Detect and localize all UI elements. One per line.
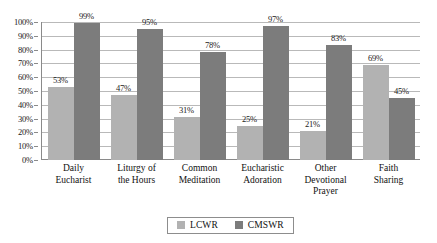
x-axis-category-labels: Daily EucharistLiturgy of the HoursCommo… (42, 163, 420, 198)
x-axis-category-label: Common Meditation (168, 163, 231, 198)
bar-lcwr[interactable]: 47% (111, 95, 137, 160)
bar-group: 21%83% (294, 22, 357, 160)
legend-item[interactable]: LCWR (177, 220, 218, 230)
bar-cmswr[interactable]: 78% (200, 52, 226, 160)
bar-value-label: 99% (79, 11, 94, 21)
bar-value-label: 31% (179, 105, 194, 115)
x-axis-category-label: Faith Sharing (357, 163, 420, 198)
y-axis-tick-mark (34, 36, 38, 37)
y-axis-tick-label: 70% (18, 58, 33, 68)
y-axis-tick-mark (34, 63, 38, 64)
bar-value-label: 95% (142, 17, 157, 27)
bar-value-label: 25% (242, 114, 257, 124)
chart-legend: LCWRCMSWR (167, 217, 294, 234)
legend-label: LCWR (190, 220, 218, 230)
bar-cmswr[interactable]: 83% (326, 45, 352, 160)
bar-value-label: 83% (331, 33, 346, 43)
y-axis-tick-label: 40% (18, 100, 33, 110)
legend-item[interactable]: CMSWR (235, 220, 284, 230)
bar-group: 25%97% (231, 22, 294, 160)
bar-value-label: 21% (305, 119, 320, 129)
y-axis: 0%10%20%30%40%50%60%70%80%90%100% (0, 22, 38, 160)
legend-label: CMSWR (248, 220, 284, 230)
grouped-bar-chart: 0%10%20%30%40%50%60%70%80%90%100% 53%99%… (0, 0, 437, 243)
y-axis-tick-label: 60% (18, 72, 33, 82)
y-axis-tick-mark (34, 119, 38, 120)
x-axis-category-label: Liturgy of the Hours (105, 163, 168, 198)
y-axis-tick-mark (34, 160, 38, 161)
bar-lcwr[interactable]: 21% (300, 131, 326, 160)
bar-cmswr[interactable]: 99% (74, 23, 100, 160)
x-axis-category-label: Daily Eucharist (42, 163, 105, 198)
y-axis-tick-mark (34, 22, 38, 23)
y-axis-tick-mark (34, 146, 38, 147)
bar-lcwr[interactable]: 69% (363, 65, 389, 160)
y-axis-tick-label: 100% (14, 17, 33, 27)
y-axis-tick-label: 10% (18, 141, 33, 151)
bar-value-label: 45% (394, 86, 409, 96)
bar-cmswr[interactable]: 95% (137, 29, 163, 160)
bar-value-label: 97% (268, 14, 283, 24)
bar-lcwr[interactable]: 25% (237, 126, 263, 161)
bar-value-label: 69% (368, 53, 383, 63)
y-axis-tick-mark (34, 132, 38, 133)
y-axis-tick-label: 90% (18, 31, 33, 41)
y-axis-tick-label: 20% (18, 127, 33, 137)
bar-cmswr[interactable]: 45% (389, 98, 415, 160)
bar-value-label: 78% (205, 40, 220, 50)
legend-swatch-icon (235, 221, 243, 229)
x-axis-category-label: Eucharistic Adoration (231, 163, 294, 198)
bar-value-label: 47% (116, 83, 131, 93)
bar-value-label: 53% (53, 75, 68, 85)
bar-group: 47%95% (105, 22, 168, 160)
y-axis-tick-label: 80% (18, 45, 33, 55)
bar-group: 69%45% (357, 22, 420, 160)
y-axis-tick-mark (34, 50, 38, 51)
bar-cmswr[interactable]: 97% (263, 26, 289, 160)
y-axis-tick-label: 0% (22, 155, 33, 165)
bar-groups: 53%99%47%95%31%78%25%97%21%83%69%45% (42, 22, 420, 160)
y-axis-tick-mark (34, 105, 38, 106)
x-axis-category-label: Other Devotional Prayer (294, 163, 357, 198)
bar-lcwr[interactable]: 31% (174, 117, 200, 160)
bar-group: 31%78% (168, 22, 231, 160)
bar-lcwr[interactable]: 53% (48, 87, 74, 160)
legend-swatch-icon (177, 221, 185, 229)
bar-group: 53%99% (42, 22, 105, 160)
y-axis-tick-label: 50% (18, 86, 33, 96)
y-axis-tick-mark (34, 91, 38, 92)
y-axis-tick-label: 30% (18, 114, 33, 124)
y-axis-tick-mark (34, 77, 38, 78)
